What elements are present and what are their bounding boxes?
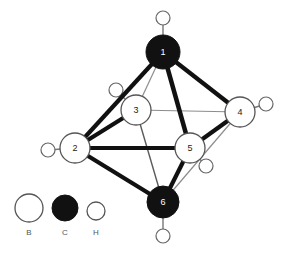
hydrogen-atom-H4 [259,97,273,111]
back-bonds [136,52,240,202]
structure-canvas: 3 2 4 5 1 6 B [0,0,283,254]
vertex-6[interactable]: 6 [147,186,179,218]
legend-boron-label: B [26,228,31,237]
legend-carbon-label: C [62,228,68,237]
vertex-1-label: 1 [160,47,165,57]
hydrogen-atom-H6 [156,229,170,243]
vertex-2-label: 2 [72,143,77,153]
front-bonds [75,52,240,202]
vertex-2[interactable]: 2 [60,133,90,163]
hydrogen-atom-H2 [41,143,55,157]
hydrogen-atom-H1 [156,11,170,25]
molecular-structure-figure: 3 2 4 5 1 6 B [0,0,283,254]
legend-boron-icon [15,194,43,222]
cluster-vertices: 3 2 4 5 1 6 [60,35,255,218]
vertex-3-label: 3 [133,105,138,115]
vertex-4-label: 4 [237,107,242,117]
legend-hydrogen-icon [87,202,105,220]
bond-1-2 [75,52,163,148]
vertex-5[interactable]: 5 [175,133,205,163]
vertex-4[interactable]: 4 [225,97,255,127]
legend-carbon-icon [52,195,78,221]
vertex-5-label: 5 [187,143,192,153]
legend: B C H [15,194,105,237]
legend-hydrogen-label: H [93,228,99,237]
vertex-3[interactable]: 3 [121,95,151,125]
hydrogen-atom-H5 [199,159,213,173]
vertex-6-label: 6 [160,197,165,207]
vertex-1[interactable]: 1 [146,35,180,69]
